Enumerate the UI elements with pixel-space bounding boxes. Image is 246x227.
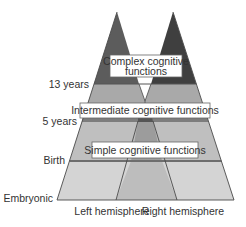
intermediate-functions-label: Intermediate cognitive functions bbox=[71, 104, 219, 116]
right-hemisphere-label: Right hemisphere bbox=[142, 205, 224, 217]
age-label-5-years: 5 years bbox=[43, 115, 77, 127]
left-hemisphere-label: Left hemisphere bbox=[74, 205, 149, 217]
age-label-embryonic: Embryonic bbox=[3, 192, 53, 204]
complex-functions-line2: functions bbox=[125, 65, 167, 77]
simple-functions-label: Simple cognitive functions bbox=[84, 144, 205, 156]
brain-development-diagram: Complex cognitive functions Intermediate… bbox=[0, 0, 246, 227]
age-label-13-years: 13 years bbox=[49, 78, 89, 90]
age-label-birth: Birth bbox=[43, 154, 65, 166]
